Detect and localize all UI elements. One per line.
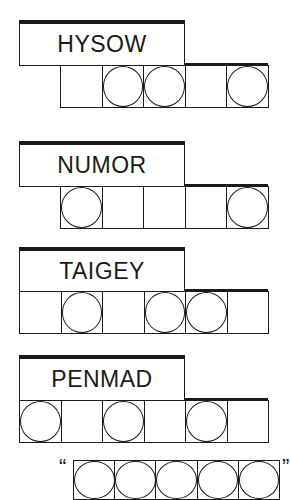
letter-cell[interactable] bbox=[226, 186, 269, 229]
answer-cell[interactable] bbox=[155, 460, 198, 500]
letter-cell[interactable] bbox=[102, 186, 145, 229]
letter-cell[interactable] bbox=[185, 186, 228, 229]
circled-letter-marker bbox=[20, 401, 61, 442]
circled-letter-marker bbox=[186, 401, 227, 442]
letter-cell[interactable] bbox=[185, 291, 228, 334]
circled-letter-marker bbox=[227, 187, 268, 228]
close-quote: ” bbox=[282, 456, 289, 478]
answer-cell[interactable] bbox=[197, 460, 240, 500]
circled-letter-marker bbox=[145, 292, 186, 333]
letter-cell[interactable] bbox=[144, 400, 187, 443]
answer-cell[interactable] bbox=[238, 460, 281, 500]
letter-cell[interactable] bbox=[185, 65, 228, 108]
circled-letter-marker bbox=[156, 461, 197, 499]
letter-cell[interactable] bbox=[143, 186, 186, 229]
letter-cell[interactable] bbox=[144, 291, 187, 334]
scrambled-word-label: HYSOW bbox=[19, 20, 185, 66]
answer-cell[interactable] bbox=[73, 460, 116, 500]
circled-letter-marker bbox=[103, 66, 144, 107]
letter-cell[interactable] bbox=[227, 291, 270, 334]
scrambled-word-label: PENMAD bbox=[19, 355, 185, 401]
letter-cell[interactable] bbox=[226, 65, 269, 108]
letter-cell[interactable] bbox=[60, 65, 103, 108]
circled-letter-marker bbox=[186, 292, 227, 333]
circled-letter-marker bbox=[115, 461, 156, 499]
circled-letter-marker bbox=[61, 187, 102, 228]
letter-cell[interactable] bbox=[185, 400, 228, 443]
scrambled-word-label: TAIGEY bbox=[19, 247, 185, 292]
circled-letter-marker bbox=[227, 66, 268, 107]
scrambled-word-label: NUMOR bbox=[19, 141, 185, 187]
circled-letter-marker bbox=[103, 401, 144, 442]
circled-letter-marker bbox=[74, 461, 115, 499]
letter-cell[interactable] bbox=[143, 65, 186, 108]
circled-letter-marker bbox=[239, 461, 280, 499]
letter-cell[interactable] bbox=[102, 65, 145, 108]
circled-letter-marker bbox=[144, 66, 185, 107]
letter-cell[interactable] bbox=[61, 400, 104, 443]
circled-letter-marker bbox=[62, 292, 103, 333]
open-quote: “ bbox=[59, 456, 66, 478]
letter-cell[interactable] bbox=[102, 400, 145, 443]
circled-letter-marker bbox=[198, 461, 239, 499]
letter-cell[interactable] bbox=[227, 400, 270, 443]
letter-cell[interactable] bbox=[60, 186, 103, 229]
letter-cell[interactable] bbox=[19, 291, 62, 334]
letter-cell[interactable] bbox=[102, 291, 145, 334]
answer-cell[interactable] bbox=[114, 460, 157, 500]
letter-cell[interactable] bbox=[19, 400, 62, 443]
letter-cell[interactable] bbox=[61, 291, 104, 334]
